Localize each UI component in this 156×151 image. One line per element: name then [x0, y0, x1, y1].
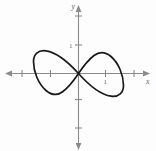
y-axis-arrow-up [76, 5, 82, 12]
plot-canvas: x y 1 1 [0, 0, 156, 151]
x-axis-label: x [145, 77, 150, 86]
x-tick-label-1: 1 [104, 78, 108, 86]
math-figure: x y 1 1 [0, 0, 156, 151]
y-axis-label: y [71, 2, 76, 11]
y-axis-arrow-down [76, 143, 82, 150]
y-tick-label-1: 1 [69, 42, 73, 50]
x-axis-arrow-right [143, 71, 150, 77]
x-axis-arrow-left [5, 71, 12, 77]
